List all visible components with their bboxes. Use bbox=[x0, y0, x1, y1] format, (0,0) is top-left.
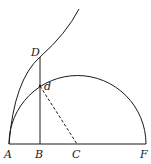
geometry-diagram: D d A B C F bbox=[0, 0, 151, 164]
point-d bbox=[39, 85, 41, 87]
semicircle bbox=[9, 76, 146, 144]
label-A: A bbox=[3, 148, 12, 161]
label-D: D bbox=[30, 46, 40, 59]
label-C: C bbox=[72, 148, 81, 161]
dashed-segment-dC bbox=[40, 86, 77, 144]
label-F: F bbox=[139, 148, 148, 161]
label-d: d bbox=[44, 80, 51, 93]
label-B: B bbox=[34, 148, 43, 161]
